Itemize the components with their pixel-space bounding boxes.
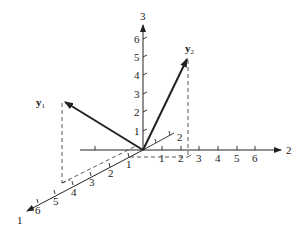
axis3-label: 3 — [140, 10, 146, 22]
vector-y1-label: y1 — [36, 96, 46, 110]
axis-3: 1 2 3 4 5 6 3 — [134, 10, 147, 150]
axis1-tick-6: 6 — [35, 204, 41, 216]
vector-y1: y1 — [36, 96, 143, 150]
axis2-tick-5: 5 — [234, 152, 240, 164]
axis1-negative-tick-2: 2 — [177, 131, 183, 143]
axis2-tick-4: 4 — [215, 152, 221, 164]
axis-1: 1 2 3 4 5 6 1 2 — [17, 131, 183, 226]
axis1-tick-4: 4 — [71, 186, 77, 198]
axis3-tick-3: 3 — [134, 88, 140, 100]
axis3-tick-6: 6 — [134, 33, 140, 45]
axis3-tick-1: 1 — [134, 125, 140, 137]
axis1-tick-2: 2 — [108, 167, 114, 179]
axis2-tick-1: 1 — [159, 152, 165, 164]
vector-diagram: 1 2 3 4 5 6 3 1 2 3 4 5 6 — [0, 0, 298, 233]
axis3-tick-5: 5 — [134, 51, 140, 63]
axis1-label: 1 — [17, 214, 23, 226]
vector-y2-label: y2 — [185, 42, 195, 56]
axis3-tick-2: 2 — [134, 106, 140, 118]
axis2-tick-6: 6 — [252, 152, 258, 164]
axis2-label: 2 — [286, 144, 292, 156]
axis1-tick-3: 3 — [89, 176, 95, 188]
vector-y2: y2 — [143, 42, 195, 150]
axis-2: 1 2 3 4 5 6 2 — [80, 144, 292, 164]
axis1-tick-1: 1 — [126, 158, 132, 170]
axis3-tick-4: 4 — [134, 69, 140, 81]
axis2-tick-3: 3 — [196, 152, 202, 164]
axis1-tick-5: 5 — [53, 195, 59, 207]
axis2-tick-2: 2 — [178, 152, 184, 164]
